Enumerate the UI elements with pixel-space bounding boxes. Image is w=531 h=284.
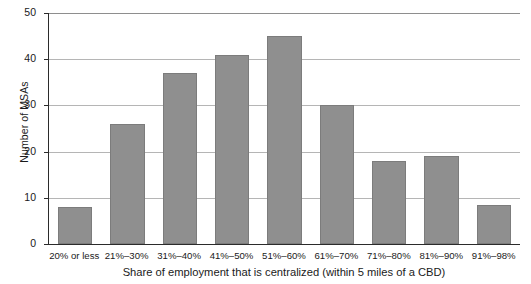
x-axis-tick-label: 81%–90% (415, 250, 467, 261)
y-axis-tick-label: 30 (24, 98, 36, 110)
bar (372, 161, 407, 244)
x-axis-tick-label: 91%–98% (468, 250, 520, 261)
bar-slot (258, 13, 310, 244)
bars-layer (49, 13, 520, 244)
bar (477, 205, 512, 244)
bar-slot (206, 13, 258, 244)
x-axis-tick-label: 20% or less (48, 250, 100, 261)
bar (215, 55, 250, 244)
bar (267, 36, 302, 244)
bar-slot (154, 13, 206, 244)
bar (424, 156, 459, 244)
y-axis-tick-label: 10 (24, 191, 36, 203)
bar-slot (311, 13, 363, 244)
bar (320, 105, 355, 244)
plot-area: 01020304050 (48, 13, 520, 245)
bar-slot (49, 13, 101, 244)
x-axis-tick-labels: 20% or less21%–30%31%–40%41%–50%51%–60%6… (48, 250, 520, 261)
bar (58, 207, 93, 244)
x-axis-tick-label: 31%–40% (153, 250, 205, 261)
bar-slot (101, 13, 153, 244)
bar (163, 73, 198, 244)
bar-slot (415, 13, 467, 244)
x-axis-title: Share of employment that is centralized … (48, 266, 520, 278)
y-axis-title: Number of MSAs (18, 52, 30, 192)
y-axis-tick-label: 20 (24, 145, 36, 157)
y-axis-tick-label: 0 (30, 237, 36, 249)
bar (110, 124, 145, 244)
y-axis-tick: 0 (44, 244, 49, 245)
x-axis-tick-label: 71%–80% (363, 250, 415, 261)
x-axis-tick-label: 61%–70% (310, 250, 362, 261)
bar-slot (468, 13, 520, 244)
x-axis-tick-label: 21%–30% (100, 250, 152, 261)
y-axis-tick-label: 50 (24, 6, 36, 18)
x-axis-tick-label: 51%–60% (258, 250, 310, 261)
x-axis-tick-label: 41%–50% (205, 250, 257, 261)
bar-chart: Number of MSAs 01020304050 20% or less21… (0, 0, 531, 284)
bar-slot (363, 13, 415, 244)
y-axis-tick-label: 40 (24, 52, 36, 64)
